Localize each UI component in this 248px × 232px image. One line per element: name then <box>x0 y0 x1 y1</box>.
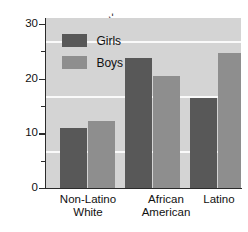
y-tick-label-0: 0 <box>16 182 38 194</box>
legend-item-girls: Girls <box>62 34 123 47</box>
bar-girls-non-latino-white <box>60 128 87 188</box>
x-category-line-1: Latino <box>203 193 234 205</box>
y-tick-label-30: 30 <box>16 18 38 30</box>
y-tick-major-10 <box>39 133 45 134</box>
y-axis-tick-labels: 0 10 20 30 <box>12 0 38 232</box>
bar-boys-non-latino-white <box>88 121 115 189</box>
y-tick-major-30 <box>39 24 45 25</box>
bar-girls-african-american <box>125 58 152 188</box>
x-category-line-1: African <box>148 193 184 205</box>
bar-chart: Percent of overweight 11- to 19-year- ol… <box>0 0 248 232</box>
x-category-label-latino: Latino <box>190 193 248 206</box>
legend-swatch-boys-icon <box>62 56 87 69</box>
x-category-label-non-latino-white: Non-Latino White <box>46 193 130 218</box>
x-axis-line <box>45 188 242 189</box>
bar-boys-african-american <box>153 76 180 189</box>
y-tick-minor-15 <box>41 106 46 107</box>
legend-swatch-girls-icon <box>62 34 87 47</box>
y-tick-minor-25 <box>41 51 46 52</box>
bar-boys-latino <box>218 53 241 188</box>
y-tick-label-10: 10 <box>16 128 38 140</box>
y-tick-major-0 <box>39 188 45 189</box>
legend: Girls Boys <box>62 34 123 78</box>
legend-label-boys: Boys <box>96 57 123 69</box>
legend-item-boys: Boys <box>62 56 123 69</box>
y-tick-minor-5 <box>41 161 46 162</box>
y-tick-label-20: 20 <box>16 73 38 85</box>
plot-area: Girls Boys <box>46 18 241 188</box>
bar-girls-latino <box>190 98 217 188</box>
legend-label-girls: Girls <box>96 35 121 47</box>
x-category-line-2: White <box>46 206 130 219</box>
x-category-line-2: American <box>124 206 208 219</box>
y-tick-major-20 <box>39 79 45 80</box>
x-category-line-1: Non-Latino <box>60 193 116 205</box>
